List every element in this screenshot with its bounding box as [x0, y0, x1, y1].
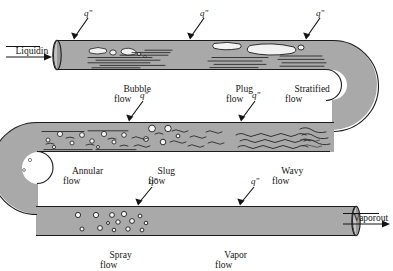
flux-label-1: q″	[84, 8, 92, 18]
left-bend-fill	[0, 122, 38, 214]
regime-label-stratified-flow: Stratifiedflow	[285, 73, 330, 126]
left-bend-striations	[23, 158, 32, 171]
regime-vapor-line1: Vapor	[224, 250, 247, 260]
flux-label-3: q″	[316, 8, 324, 18]
regime-label-plug-flow: Plugflow	[226, 73, 253, 126]
regime-spray-line2: flow	[100, 260, 132, 271]
regime-vapor-line2: flow	[215, 260, 247, 271]
tube-diagram	[0, 0, 393, 271]
flux-arrow-7	[237, 187, 254, 206]
regime-plug-line2: flow	[226, 94, 253, 105]
flow-regime-figure: Liquidin Vaporout q″ q″ q″ q″ q″ q″ q″ B…	[0, 0, 393, 271]
flux-arrow-1	[71, 18, 88, 40]
outlet-label-line2: out	[376, 213, 388, 223]
flux-label-2: q″	[200, 8, 208, 18]
regime-label-annular-flow: Annularflow	[63, 155, 103, 208]
outlet-label: Vaporout	[344, 202, 388, 234]
regime-plug-line1: Plug	[236, 84, 253, 94]
regime-wavy-line1: Wavy	[281, 166, 303, 176]
regime-bubble-line2: flow	[114, 94, 151, 105]
flux-label-5: q″	[252, 90, 260, 100]
regime-label-bubble-flow: Bubbleflow	[114, 73, 151, 126]
bottom-run-fill	[36, 206, 356, 236]
regime-slug-line2: flow	[148, 176, 175, 187]
regime-label-wavy-flow: Wavyflow	[272, 155, 303, 208]
regime-spray-line1: Spray	[110, 250, 132, 260]
inlet-opening	[53, 40, 61, 70]
flux-arrow-3	[303, 18, 320, 40]
inlet-label: Liquidin	[6, 35, 48, 67]
right-bend-fill	[332, 40, 377, 130]
regime-annular-line2: flow	[63, 176, 103, 187]
regime-label-slug-flow: Slugflow	[148, 155, 175, 208]
regime-wavy-line2: flow	[272, 176, 303, 187]
regime-label-spray-flow: Sprayflow	[100, 239, 132, 271]
inlet-label-line1: Liquid	[16, 46, 41, 56]
inlet-label-line2: in	[41, 46, 48, 56]
regime-stratified-line2: flow	[285, 94, 330, 105]
flux-label-7: q″	[251, 176, 259, 186]
regime-slug-line1: Slug	[158, 166, 175, 176]
regime-bubble-line1: Bubble	[124, 84, 151, 94]
flux-arrow-2	[187, 18, 204, 40]
regime-annular-line1: Annular	[72, 166, 103, 176]
top-run-fill	[56, 40, 332, 70]
regime-stratified-line1: Stratified	[295, 84, 330, 94]
outlet-label-line1: Vapor	[353, 213, 376, 223]
regime-label-vapor-flow: Vaporflow	[215, 239, 247, 271]
